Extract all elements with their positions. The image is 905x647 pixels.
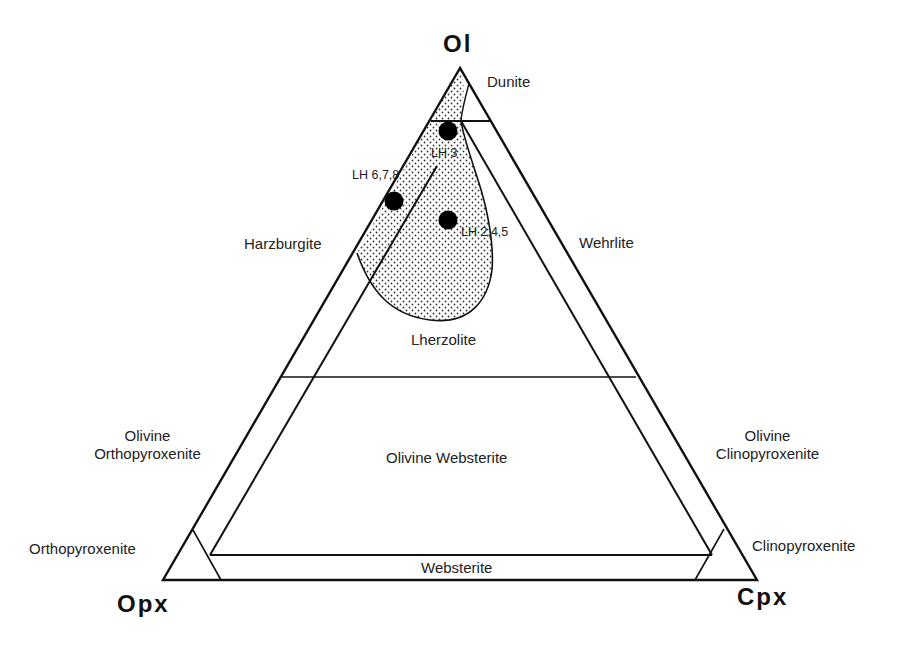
field-label-olivine-orthopyroxenite: Olivine Orthopyroxenite bbox=[75, 427, 220, 463]
harzburgite-boundary-line bbox=[210, 166, 437, 555]
sample-point-lh678 bbox=[385, 192, 404, 211]
field-label-olivine-websterite: Olivine Websterite bbox=[386, 449, 507, 467]
apex-label-opx: Opx bbox=[117, 590, 170, 618]
apex-label-cpx: Cpx bbox=[737, 583, 788, 611]
ternary-diagram: Ol Opx Cpx Dunite Harzburgite Wehrlite L… bbox=[0, 0, 905, 647]
apex-label-olivine: Ol bbox=[443, 30, 472, 58]
field-label-wehrlite: Wehrlite bbox=[579, 234, 634, 252]
field-label-dunite: Dunite bbox=[487, 73, 530, 91]
wehrlite-boundary-line bbox=[461, 121, 712, 555]
field-label-harzburgite: Harzburgite bbox=[244, 235, 322, 253]
field-label-clinopyroxenite: Clinopyroxenite bbox=[752, 537, 855, 555]
field-label-olivine-orthopyroxenite-line2: Orthopyroxenite bbox=[75, 445, 220, 463]
field-label-websterite: Websterite bbox=[421, 559, 492, 577]
field-label-olivine-orthopyroxenite-line1: Olivine bbox=[75, 427, 220, 445]
sample-label-lh3: LH 3 bbox=[431, 146, 457, 161]
field-label-olivine-clinopyroxenite-line1: Olivine bbox=[700, 427, 835, 445]
sample-point-lh3 bbox=[439, 122, 458, 141]
field-label-orthopyroxenite: Orthopyroxenite bbox=[29, 540, 136, 558]
stippled-region bbox=[357, 68, 492, 321]
field-label-olivine-clinopyroxenite: Olivine Clinopyroxenite bbox=[700, 427, 835, 463]
field-label-olivine-clinopyroxenite-line2: Clinopyroxenite bbox=[700, 445, 835, 463]
sample-label-lh678: LH 6,7,8 bbox=[352, 168, 399, 183]
sample-point-lh245 bbox=[439, 211, 458, 230]
field-label-lherzolite: Lherzolite bbox=[411, 331, 476, 349]
sample-label-lh245: LH 2,4,5 bbox=[461, 225, 508, 240]
